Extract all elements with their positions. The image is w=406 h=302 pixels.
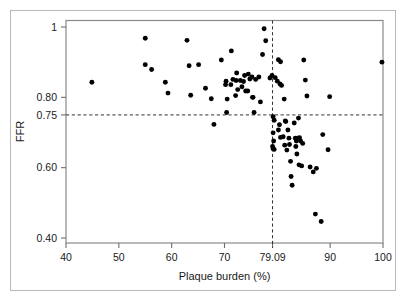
scatter-point <box>258 99 263 104</box>
y-tick-label: 1 <box>51 21 57 33</box>
scatter-point <box>219 58 224 63</box>
scatter-point <box>301 58 306 63</box>
scatter-point <box>314 166 319 171</box>
scatter-point <box>229 48 234 53</box>
scatter-point <box>89 80 94 85</box>
scatter-point <box>299 163 304 168</box>
scatter-point <box>283 119 288 124</box>
scatter-point <box>281 134 286 139</box>
scatter-point <box>225 97 230 102</box>
scatter-point <box>279 83 284 88</box>
scatter-point <box>300 141 305 146</box>
scatter-point <box>287 136 292 141</box>
scatter-point <box>262 26 267 31</box>
scatter-point <box>282 97 287 102</box>
scatter-point <box>211 122 216 127</box>
scatter-point <box>241 79 246 84</box>
y-tick-label: 0.80 <box>37 91 58 103</box>
scatter-point <box>149 67 154 72</box>
scatter-point <box>252 110 257 115</box>
scatter-point <box>278 59 283 64</box>
scatter-point <box>290 183 295 188</box>
scatter-point <box>293 144 298 149</box>
x-tick-label: 70 <box>219 251 231 263</box>
scatter-point <box>296 116 301 121</box>
scatter-point <box>185 38 190 43</box>
scatter-point <box>209 96 214 101</box>
x-tick-label: 50 <box>113 251 125 263</box>
scatter-point <box>319 219 324 224</box>
x-axis-tick-labels: 4050607079.0990100 <box>60 251 392 263</box>
scatter-point <box>287 142 292 147</box>
scatter-point <box>327 94 332 99</box>
scatter-points <box>89 26 384 224</box>
x-tick-label: 60 <box>166 251 178 263</box>
scatter-point <box>326 147 331 152</box>
scatter-point <box>313 212 318 217</box>
scatter-point <box>188 93 193 98</box>
x-tick-label: 40 <box>60 251 72 263</box>
scatter-point <box>203 86 208 91</box>
scatter-point <box>143 62 148 67</box>
scatter-point <box>308 165 313 170</box>
y-tick-label: 0.60 <box>37 161 58 173</box>
scatter-point <box>234 78 239 83</box>
y-tick-label: 0.75 <box>37 109 58 121</box>
scatter-point <box>260 52 265 57</box>
scatter-point <box>304 93 309 98</box>
scatter-point <box>235 87 240 92</box>
scatter-point <box>294 152 299 157</box>
y-axis-tick-labels: 0.400.600.750.801 <box>37 21 58 244</box>
scatter-point <box>272 118 277 123</box>
x-axis-ticks <box>66 243 383 248</box>
scatter-point <box>263 38 268 43</box>
x-tick-label: 100 <box>374 251 392 263</box>
scatter-point <box>284 148 289 153</box>
scatter-point <box>289 174 294 179</box>
scatter-point <box>271 130 276 135</box>
scatter-point <box>271 138 276 143</box>
scatter-point <box>256 74 261 79</box>
scatter-plot: 4050607079.0990100 0.400.600.750.801 Pla… <box>0 0 406 302</box>
scatter-point <box>233 93 238 98</box>
scatter-point <box>251 95 256 100</box>
y-tick-label: 0.40 <box>37 232 58 244</box>
scatter-point <box>224 110 229 115</box>
plot-frame <box>66 21 383 244</box>
reference-lines <box>66 21 383 249</box>
x-axis-title: Plaque burden (%) <box>179 270 271 282</box>
scatter-point <box>143 36 148 41</box>
scatter-point <box>196 62 201 67</box>
scatter-point <box>245 89 250 94</box>
scatter-point <box>292 121 297 126</box>
scatter-point <box>303 78 308 83</box>
scatter-point <box>276 128 281 133</box>
scatter-point <box>166 91 171 96</box>
scatter-point <box>285 128 290 133</box>
x-tick-label: 90 <box>324 251 336 263</box>
figure-container: 4050607079.0990100 0.400.600.750.801 Pla… <box>0 0 406 302</box>
scatter-point <box>379 60 384 65</box>
scatter-point <box>234 71 239 76</box>
y-axis-title: FFR <box>14 121 26 142</box>
scatter-point <box>288 159 293 164</box>
scatter-point <box>272 147 277 152</box>
scatter-point <box>228 82 233 87</box>
scatter-point <box>239 84 244 89</box>
scatter-point <box>163 80 168 85</box>
scatter-point <box>320 132 325 137</box>
x-tick-label: 79.09 <box>259 251 285 263</box>
scatter-point <box>187 63 192 68</box>
scatter-point <box>223 82 228 87</box>
y-axis-ticks <box>61 27 66 238</box>
scatter-point <box>282 143 287 148</box>
scatter-point <box>277 122 282 127</box>
